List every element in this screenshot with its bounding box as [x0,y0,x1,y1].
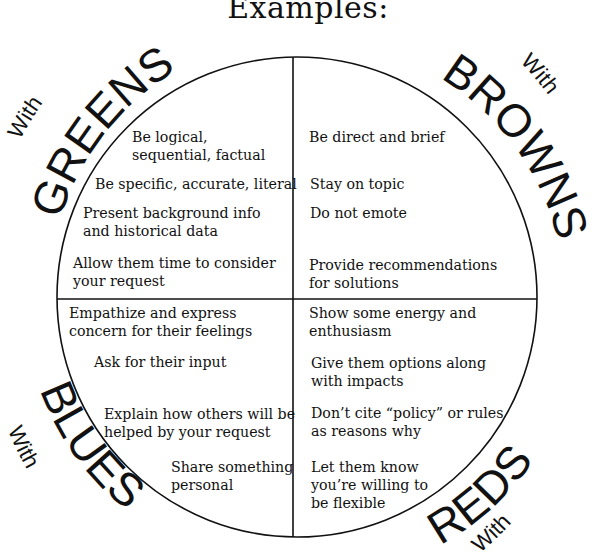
tip-line: and historical data [83,222,261,240]
reds-tip: Let them know you’re willing to be flexi… [311,458,428,512]
tip-line: for solutions [309,274,497,292]
tip-line: Be direct and brief [309,128,445,146]
browns-tip: Do not emote [310,204,407,222]
tip-line: Present background info [83,204,261,222]
tip-line: Empathize and express [69,304,252,322]
greens-tip: Allow them time to consider your request [73,254,276,290]
tip-line: as reasons why [311,422,504,440]
tip-line: Share something [171,458,293,476]
communication-styles-diagram: Examples: GREENS With BR [0,0,616,553]
tip-line: Ask for their input [94,353,226,371]
browns-tip: Be direct and brief [309,128,445,146]
reds-tip: Show some energy and enthusiasm [309,304,476,340]
tip-line: Don’t cite “policy” or rules [311,404,504,422]
blues-tip: Ask for their input [94,353,226,371]
greens-tip: Be specific, accurate, literal [95,175,297,193]
reds-tip: Give them options along with impacts [311,354,486,390]
blues-with-label: With [3,422,44,472]
browns-with-label: With [516,48,564,98]
tip-line: Let them know [311,458,428,476]
blues-tip: Share something personal [171,458,293,494]
tip-line: enthusiasm [309,322,476,340]
reds-tip: Don’t cite “policy” or rules as reasons … [311,404,504,440]
browns-tip: Provide recommendations for solutions [309,256,497,292]
browns-label: BROWNS [434,43,598,244]
tip-line: Provide recommendations [309,256,497,274]
greens-tip: Present background info and historical d… [83,204,261,240]
browns-tip: Stay on topic [310,175,404,193]
greens-with-label: With [2,91,47,142]
tip-line: with impacts [311,372,486,390]
tip-line: Be logical, [132,128,265,146]
tip-line: Be specific, accurate, literal [95,175,297,193]
tip-line: be flexible [311,494,428,512]
tip-line: Show some energy and [309,304,476,322]
blues-label: BLUES [30,374,154,519]
tip-line: you’re willing to [311,476,428,494]
tip-line: Allow them time to consider [73,254,276,272]
greens-tip: Be logical, sequential, factual [132,128,265,164]
tip-line: Give them options along [311,354,486,372]
tip-line: helped by your request [104,423,295,441]
tip-line: Stay on topic [310,175,404,193]
blues-tip: Empathize and express concern for their … [69,304,252,340]
tip-line: your request [73,272,276,290]
tip-line: personal [171,476,293,494]
tip-line: Do not emote [310,204,407,222]
tip-line: sequential, factual [132,146,265,164]
tip-line: Explain how others will be [104,405,295,423]
tip-line: concern for their feelings [69,322,252,340]
blues-tip: Explain how others will be helped by you… [104,405,295,441]
